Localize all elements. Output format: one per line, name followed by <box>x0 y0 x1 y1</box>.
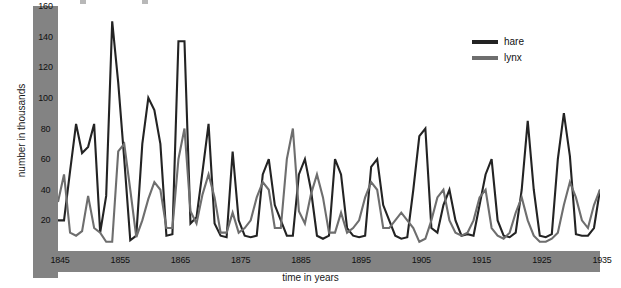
x-tick-1895: 1895 <box>344 256 378 265</box>
x-tick-1885: 1885 <box>284 256 318 265</box>
legend-label-hare: hare <box>504 37 524 47</box>
x-tick-1935: 1935 <box>585 256 619 265</box>
top-clip-artifact-right <box>142 0 148 4</box>
legend-swatch-lynx <box>472 56 498 60</box>
chart-screenshot: 16014012010080604020 1845185518651875188… <box>0 0 621 288</box>
x-tick-1855: 1855 <box>103 256 137 265</box>
legend-item-hare[interactable]: hare <box>472 34 582 50</box>
top-clip-artifact-left <box>80 0 86 4</box>
y-tick-160: 160 <box>33 2 58 11</box>
x-tick-1925: 1925 <box>525 256 559 265</box>
x-tick-1845: 1845 <box>43 256 77 265</box>
x-tick-1865: 1865 <box>163 256 197 265</box>
y-tick-80: 80 <box>33 125 58 134</box>
chart-legend: harelynx <box>472 34 582 66</box>
x-axis-title: time in years <box>0 272 621 283</box>
legend-label-lynx: lynx <box>504 53 522 63</box>
legend-swatch-hare <box>472 40 498 44</box>
y-tick-60: 60 <box>33 155 58 164</box>
y-tick-40: 40 <box>33 186 58 195</box>
y-tick-20: 20 <box>33 216 58 225</box>
y-tick-120: 120 <box>33 63 58 72</box>
x-tick-1875: 1875 <box>224 256 258 265</box>
y-axis-title: number in thousands <box>16 66 27 196</box>
y-axis-band <box>33 6 58 278</box>
x-tick-1915: 1915 <box>465 256 499 265</box>
legend-item-lynx[interactable]: lynx <box>472 50 582 66</box>
x-tick-1905: 1905 <box>404 256 438 265</box>
y-tick-100: 100 <box>33 94 58 103</box>
y-tick-140: 140 <box>33 33 58 42</box>
